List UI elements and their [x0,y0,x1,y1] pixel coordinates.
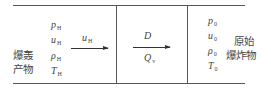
products-label-line1: 爆轰 [13,50,33,61]
detonation-velocity-label: D [144,31,151,41]
bottom-boundary-line [13,83,245,84]
middle-arrow [133,47,170,48]
left-var-u: uH [51,35,61,46]
left-arrow [71,48,108,49]
top-boundary-line [13,5,245,6]
explosive-label-line2: 爆炸物 [226,50,256,61]
explosive-label-line1: 原始 [234,36,254,47]
right-var-u: u0 [208,31,217,42]
left-front-line [116,5,117,83]
left-arrow-label: uH [82,33,92,44]
right-var-T: T0 [208,61,218,72]
right-var-p: p0 [208,16,217,27]
left-var-rho: ρH [51,51,61,62]
right-front-line [187,5,188,83]
left-var-p: pH [51,20,61,31]
right-var-rho: ρ0 [208,46,217,57]
heat-release-label: Qv [144,53,155,64]
left-var-T: TH [51,66,62,77]
products-label-line2: 产物 [13,64,33,75]
